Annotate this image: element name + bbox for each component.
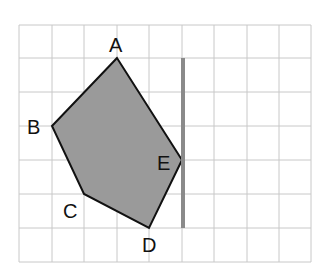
label-D: D	[142, 234, 156, 256]
label-C: C	[63, 200, 77, 222]
label-E: E	[157, 152, 170, 174]
label-B: B	[27, 116, 40, 138]
polygon-grid-diagram: A B C D E	[0, 0, 323, 280]
label-A: A	[109, 34, 123, 56]
